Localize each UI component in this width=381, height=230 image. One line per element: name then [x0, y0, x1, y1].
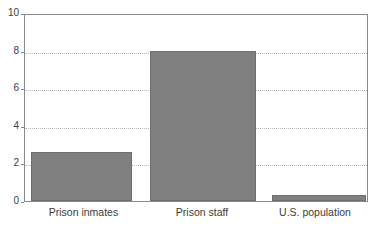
y-tick-label-2: 2 — [13, 157, 19, 168]
bar-prison-inmates[interactable] — [31, 152, 132, 201]
y-tick-label-10: 10 — [8, 7, 19, 18]
y-tick-label-6: 6 — [13, 82, 19, 93]
y-axis: 0 2 4 6 8 10 — [0, 14, 24, 202]
x-tick-label-prison-staff: Prison staff — [143, 205, 261, 219]
x-tick-label-prison-inmates: Prison inmates — [24, 205, 143, 219]
bar-chart: 0 2 4 6 8 10 — [0, 0, 381, 230]
bar-prison-staff[interactable] — [150, 51, 256, 201]
x-tick-label-us-population: U.S. population — [262, 205, 368, 219]
y-tick-label-4: 4 — [13, 120, 19, 131]
y-tick-label-0: 0 — [13, 195, 19, 206]
x-axis: Prison inmates Prison staff U.S. populat… — [24, 205, 368, 223]
y-tick-label-8: 8 — [13, 45, 19, 56]
y-tick-mark-0 — [21, 202, 24, 203]
bar-us-population[interactable] — [272, 195, 366, 201]
plot-area — [24, 14, 368, 202]
